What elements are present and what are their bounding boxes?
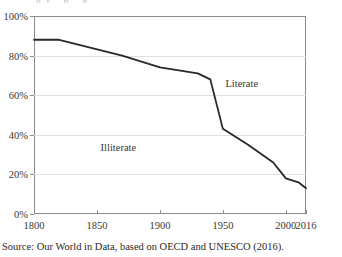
series-polyline [34, 40, 306, 189]
annotation-literate: Literate [225, 78, 258, 89]
y-tick-0 [30, 214, 34, 215]
x-axis-label-2016: 2016 [296, 220, 317, 231]
annotation-illiterate: Illiterate [101, 141, 137, 152]
source-note: Source: Our World in Data, based on OECD… [2, 241, 284, 252]
literacy-chart-figure: of p g 0%20%40%60%80%100% 18001850190019… [0, 0, 342, 257]
x-axis-label-1900: 1900 [149, 220, 170, 231]
clipped-caption-artifact: of p g [36, 0, 156, 3]
x-axis-label-1800: 1800 [24, 220, 45, 231]
illiteracy-line-series [34, 16, 306, 214]
y-axis-label-100: 100% [4, 11, 29, 22]
x-axis-label-1950: 1950 [212, 220, 233, 231]
x-axis-label-1850: 1850 [86, 220, 107, 231]
x-tick-2016 [306, 210, 307, 214]
y-axis-label-0: 0% [14, 209, 28, 220]
y-axis-label-40: 40% [9, 129, 28, 140]
y-axis-label-20: 20% [9, 169, 28, 180]
chart-plot-area: 0%20%40%60%80%100% 180018501900195020002… [34, 16, 306, 214]
y-axis-label-60: 60% [9, 90, 28, 101]
x-axis-label-2000: 2000 [275, 220, 296, 231]
y-axis-label-80: 80% [9, 50, 28, 61]
